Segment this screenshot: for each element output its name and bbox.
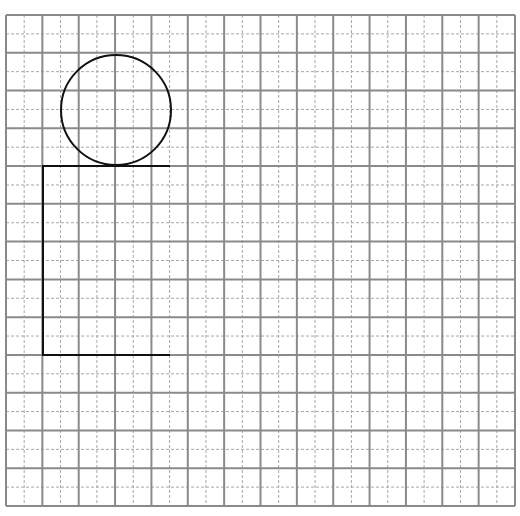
grid-diagram xyxy=(0,0,520,516)
